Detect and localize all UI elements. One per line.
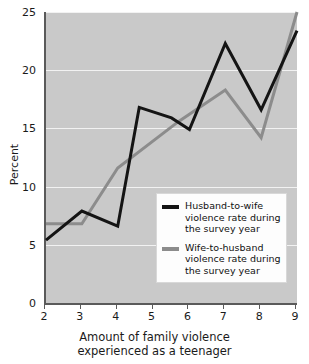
legend-label-line: the survey year <box>185 223 281 235</box>
legend-label: Wife-to-husbandviolence rate duringthe s… <box>185 242 281 277</box>
x-axis-title-line: Amount of family violence <box>0 330 309 344</box>
x-axis-title: Amount of family violenceexperienced as … <box>0 330 309 358</box>
x-axis-tick-label: 8 <box>256 311 263 322</box>
x-axis-tick-mark <box>44 304 45 309</box>
x-axis-tick-mark <box>259 304 260 309</box>
y-axis-tick-label: 10 <box>22 181 36 192</box>
y-axis-tick-label: 5 <box>29 239 36 250</box>
y-axis-title: Percent <box>8 115 21 215</box>
legend-swatch <box>162 205 179 209</box>
x-axis-tick-label: 7 <box>220 311 227 322</box>
x-axis-tick-mark <box>295 304 296 309</box>
x-axis-tick-mark <box>223 304 224 309</box>
legend-entry: Wife-to-husbandviolence rate duringthe s… <box>162 242 280 277</box>
x-axis-tick-labels: 23456789 <box>44 304 295 330</box>
x-axis-tick-label: 5 <box>148 311 155 322</box>
chart-legend: Husband-to-wifeviolence rate duringthe s… <box>156 193 287 283</box>
y-axis-tick-label: 20 <box>22 65 36 76</box>
y-axis-tick-label: 0 <box>29 298 36 309</box>
x-axis-title-line: experienced as a teenager <box>0 344 309 358</box>
legend-label: Husband-to-wifeviolence rate duringthe s… <box>185 200 281 235</box>
legend-swatch <box>162 247 179 251</box>
y-axis-tick-label: 15 <box>22 123 36 134</box>
legend-label-line: Husband-to-wife <box>185 200 281 212</box>
x-axis-tick-label: 9 <box>292 311 299 322</box>
legend-entry: Husband-to-wifeviolence rate duringthe s… <box>162 200 280 235</box>
y-axis-tick-label: 25 <box>22 7 36 18</box>
x-axis-tick-label: 3 <box>76 311 83 322</box>
x-axis-tick-mark <box>116 304 117 309</box>
x-axis-tick-mark <box>80 304 81 309</box>
x-axis-tick-label: 6 <box>184 311 191 322</box>
x-axis-tick-mark <box>152 304 153 309</box>
legend-label-line: the survey year <box>185 265 281 277</box>
x-axis-tick-label: 4 <box>112 311 119 322</box>
chart-figure: 0510152025 Percent 23456789 Amount of fa… <box>0 0 309 364</box>
x-axis-tick-label: 2 <box>41 311 48 322</box>
legend-label-line: violence rate during <box>185 212 281 224</box>
legend-label-line: violence rate during <box>185 253 281 265</box>
legend-label-line: Wife-to-husband <box>185 242 281 254</box>
x-axis-tick-mark <box>187 304 188 309</box>
